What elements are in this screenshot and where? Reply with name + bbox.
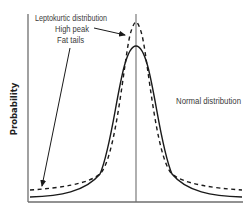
kurtosis-diagram: Leptokurtic distribution High peak Fat t… [0,0,252,213]
normal-distribution-label: Normal distribution [176,96,241,106]
fat-tails-arrow [42,48,70,186]
fat-tails-label: Fat tails [57,35,84,45]
leptokurtic-label: Leptokurtic distribution [35,13,107,23]
y-axis-label: Probability [9,82,19,135]
high-peak-arrow [94,28,125,35]
high-peak-label: High peak [55,24,90,34]
